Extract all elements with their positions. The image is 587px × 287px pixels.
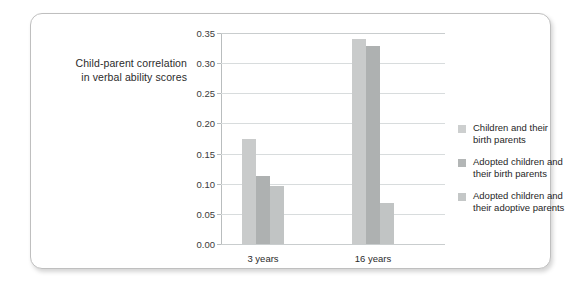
y-tick-label: 0.25: [197, 88, 216, 99]
figure-card: Child-parent correlation in verbal abili…: [30, 13, 551, 269]
y-tick-mark: [217, 93, 221, 94]
gridline: [221, 244, 445, 245]
legend-swatch-icon: [458, 193, 466, 201]
bar-group: [352, 33, 394, 244]
y-tick-mark: [217, 63, 221, 64]
bar-group: [242, 33, 284, 244]
legend-item: Adopted children andtheir birth parents: [458, 156, 587, 180]
y-tick-mark: [217, 154, 221, 155]
legend-label: Children and theirbirth parents: [473, 122, 548, 146]
legend-label: Adopted children andtheir adoptive paren…: [473, 190, 564, 214]
y-tick-mark: [217, 123, 221, 124]
legend-item: Adopted children andtheir adoptive paren…: [458, 190, 587, 214]
bar: [380, 203, 394, 244]
legend-label-line: Adopted children and: [473, 156, 563, 168]
bar: [366, 46, 380, 244]
legend-label-line: birth parents: [473, 134, 548, 146]
chart-legend: Children and theirbirth parentsAdopted c…: [458, 122, 587, 224]
legend-label-line: Adopted children and: [473, 190, 564, 202]
legend-swatch-icon: [458, 125, 466, 133]
y-tick-label: 0.15: [197, 148, 216, 159]
y-tick-label: 0.05: [197, 208, 216, 219]
y-tick-label: 0.20: [197, 118, 216, 129]
bar: [352, 39, 366, 244]
y-tick-mark: [217, 33, 221, 34]
y-tick-label: 0.10: [197, 178, 216, 189]
legend-label-line: Children and their: [473, 122, 548, 134]
y-tick-mark: [217, 184, 221, 185]
bar: [270, 186, 284, 244]
y-axis-title-line-1: Child-parent correlation: [37, 56, 187, 70]
legend-label-line: their birth parents: [473, 168, 563, 180]
y-tick-label: 0.35: [197, 28, 216, 39]
y-tick-mark: [217, 244, 221, 245]
x-tick-label: 3 years: [247, 253, 278, 264]
legend-swatch-icon: [458, 159, 466, 167]
bar: [242, 139, 256, 245]
y-axis-title: Child-parent correlation in verbal abili…: [37, 56, 187, 84]
legend-label-line: their adoptive parents: [473, 202, 564, 214]
bar: [256, 176, 270, 244]
y-axis-line: [221, 33, 222, 244]
plot-area: 0.000.050.100.150.200.250.300.35 3 years…: [221, 33, 445, 244]
legend-label: Adopted children andtheir birth parents: [473, 156, 563, 180]
y-tick-label: 0.00: [197, 239, 216, 250]
y-tick-mark: [217, 214, 221, 215]
legend-item: Children and theirbirth parents: [458, 122, 587, 146]
y-axis-title-line-2: in verbal ability scores: [37, 70, 187, 84]
x-tick-label: 16 years: [355, 253, 391, 264]
y-tick-label: 0.30: [197, 58, 216, 69]
